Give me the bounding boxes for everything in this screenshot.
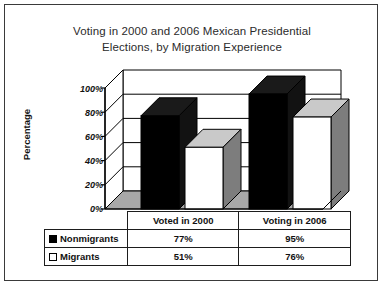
bar-migrants-2000 [185,129,241,209]
column-header-2006-label: Voting in 2006 [263,215,327,226]
legend-cell-migrants: Migrants [45,248,128,266]
bar-migrants-2006 [293,99,349,209]
hollow-square-icon [49,253,57,261]
legend-cell-nonmigrants: Nonmigrants [45,230,128,248]
data-table: Voted in 2000 Voting in 2006 Nonmigrants… [44,211,351,266]
value-migrants-2000: 51% [127,248,239,266]
bar-front-face [141,116,179,209]
column-header-2006: Voting in 2006 [239,212,351,230]
column-header-2000: Voted in 2000 [127,212,239,230]
legend-label-migrants: Migrants [60,251,100,262]
bar-front-face [293,117,331,209]
chart-frame: Voting in 2000 and 2006 Mexican Presiden… [4,4,378,281]
table-corner-cell [45,212,128,230]
value-nonmigrants-2000: 77% [127,230,239,248]
left-side-wall [105,70,123,209]
value-migrants-2006: 76% [239,248,351,266]
bar-front-face [185,147,223,209]
bar-front-face [249,94,287,209]
table-row-nonmigrants: Nonmigrants 77% 95% [45,230,351,248]
table-header-row: Voted in 2000 Voting in 2006 [45,212,351,230]
column-header-2000-label: Voted in 2000 [153,215,214,226]
solid-square-icon [49,235,57,243]
legend-label-nonmigrants: Nonmigrants [60,233,119,244]
table-row-migrants: Migrants 51% 76% [45,248,351,266]
value-nonmigrants-2006: 95% [239,230,351,248]
